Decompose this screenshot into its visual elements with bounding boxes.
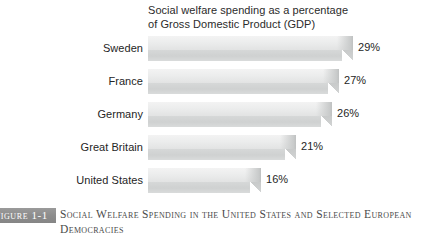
bar-row: Great Britain 21% [0,135,444,161]
bar-top-face [148,69,339,83]
category-label: Sweden [0,42,143,55]
bar-row: Germany 26% [0,102,444,128]
figure-container: Social welfare spending as a percentage … [0,0,444,251]
bar-germany [148,102,332,127]
bar-bevel [328,83,339,94]
bar-row: Sweden 29% [0,36,444,62]
bar-bevel [321,116,332,127]
value-label: 29% [358,41,380,54]
bar-top-face [148,135,296,149]
bar-bottom-face [148,182,250,193]
bar-bottom-face [148,50,342,61]
figure-caption-text: Social Welfare Spending in the United St… [60,207,442,237]
bar-top-face [148,102,332,116]
bar-bevel [250,182,261,193]
chart-title: Social welfare spending as a percentage … [148,3,428,31]
bar-bevel [285,149,296,160]
bar-united-states [148,168,261,193]
bar-great-britain [148,135,296,160]
bar-sweden [148,36,353,61]
bar-bottom-face [148,149,285,160]
bar-france [148,69,339,94]
chart-plot-area: Sweden 29% France 27% Germany [0,36,444,204]
category-label: Germany [0,108,143,121]
bar-row: France 27% [0,69,444,95]
value-label: 16% [266,173,288,186]
bar-top-face [148,168,261,182]
value-label: 21% [301,140,323,153]
bar-row: United States 16% [0,168,444,194]
bar-top-face [148,36,353,50]
value-label: 27% [344,74,366,87]
figure-number-badge: Figure 1-1 [0,208,56,223]
bar-bottom-face [148,116,321,127]
bar-bevel [342,50,353,61]
category-label: Great Britain [0,141,143,154]
category-label: France [0,75,143,88]
bar-bottom-face [148,83,328,94]
value-label: 26% [337,107,359,120]
category-label: United States [0,174,143,187]
